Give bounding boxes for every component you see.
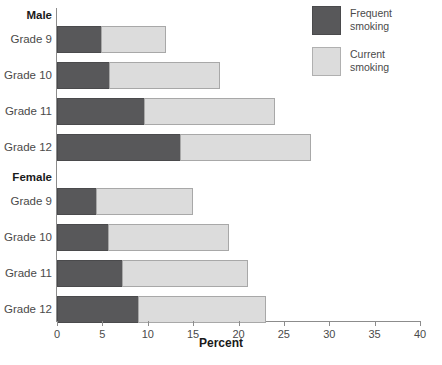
segment-frequent-smoking xyxy=(57,134,180,161)
segment-current-smoking xyxy=(122,260,247,287)
x-tick-40 xyxy=(420,321,421,326)
bar-male-grade-12 xyxy=(57,134,311,161)
category-label-female-grade-9: Grade 9 xyxy=(0,195,52,207)
segment-current-smoking xyxy=(180,134,311,161)
x-tick-25 xyxy=(284,321,285,326)
category-label-male-grade-11: Grade 11 xyxy=(0,105,52,117)
x-tick-20 xyxy=(239,321,240,326)
category-label-male-grade-12: Grade 12 xyxy=(0,141,52,153)
segment-frequent-smoking xyxy=(57,98,144,125)
plot-area: 0510152025303540 xyxy=(57,8,420,321)
bar-female-grade-12 xyxy=(57,296,266,323)
group-header-female: Female xyxy=(0,171,52,183)
segment-frequent-smoking xyxy=(57,26,101,53)
segment-current-smoking xyxy=(101,26,166,53)
category-label-male-grade-9: Grade 9 xyxy=(0,33,52,45)
x-tick-35 xyxy=(375,321,376,326)
x-tick-30 xyxy=(329,321,330,326)
bar-female-grade-9 xyxy=(57,188,193,215)
smoking-prevalence-chart: Frequent smoking Current smoking MaleGra… xyxy=(0,0,442,365)
segment-current-smoking xyxy=(96,188,193,215)
segment-current-smoking xyxy=(109,62,221,89)
segment-frequent-smoking xyxy=(57,296,138,323)
x-tick-0 xyxy=(57,321,58,326)
group-header-male: Male xyxy=(0,9,52,21)
segment-frequent-smoking xyxy=(57,260,122,287)
bar-male-grade-9 xyxy=(57,26,166,53)
category-label-female-grade-11: Grade 11 xyxy=(0,267,52,279)
bar-female-grade-11 xyxy=(57,260,248,287)
bar-male-grade-11 xyxy=(57,98,275,125)
category-label-female-grade-12: Grade 12 xyxy=(0,303,52,315)
segment-current-smoking xyxy=(144,98,275,125)
segment-frequent-smoking xyxy=(57,188,96,215)
bar-female-grade-10 xyxy=(57,224,229,251)
x-tick-15 xyxy=(193,321,194,326)
category-label-female-grade-10: Grade 10 xyxy=(0,231,52,243)
x-axis-title: Percent xyxy=(0,336,442,350)
segment-frequent-smoking xyxy=(57,224,108,251)
x-tick-10 xyxy=(148,321,149,326)
segment-current-smoking xyxy=(138,296,266,323)
category-label-male-grade-10: Grade 10 xyxy=(0,69,52,81)
x-tick-5 xyxy=(102,321,103,326)
bar-male-grade-10 xyxy=(57,62,220,89)
segment-frequent-smoking xyxy=(57,62,109,89)
segment-current-smoking xyxy=(108,224,230,251)
